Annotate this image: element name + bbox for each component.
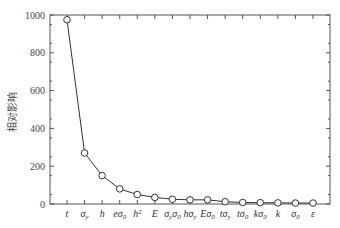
x-tick-label: σy​ [81, 208, 90, 221]
data-point-marker [152, 194, 159, 201]
y-tick-label: 400 [30, 123, 45, 134]
data-point-marker [310, 200, 317, 207]
x-tick-label: tσ0​ [237, 208, 249, 221]
data-point-marker [204, 197, 211, 204]
data-point-marker [99, 172, 106, 179]
data-point-marker [169, 196, 176, 203]
data-series [64, 16, 317, 206]
y-tick-label: 200 [30, 161, 45, 172]
y-axis-label: 相对影响 [6, 92, 18, 132]
data-point-marker [257, 199, 264, 206]
data-point-marker [292, 200, 299, 207]
y-tick-label: 600 [30, 85, 45, 96]
y-axis: 02004006008001000 [25, 10, 330, 210]
x-tick-label: σy​σ0​ [164, 208, 181, 221]
x-tick-label: E [151, 208, 158, 219]
x-tick-label: Eσ0​ [199, 208, 215, 221]
x-tick-label: k [276, 208, 281, 219]
data-point-marker [64, 16, 71, 23]
data-point-marker [222, 198, 229, 205]
y-tick-label: 1000 [25, 10, 45, 21]
x-tick-label: h [100, 208, 105, 219]
plot-frame [50, 15, 330, 204]
data-point-marker [116, 186, 123, 193]
x-tick-label: σ0​ [291, 208, 300, 221]
plot-border [50, 15, 330, 204]
x-tick-label: tσy​ [220, 208, 232, 221]
x-axis: tσy​heσ0​h²Eσy​σ0​hσy​Eσ0​tσy​tσ0​kσ0​kσ… [66, 15, 315, 221]
x-tick-label: hσy​ [183, 208, 197, 221]
data-point-marker [134, 191, 141, 198]
y-tick-label: 0 [40, 199, 45, 210]
data-point-marker [239, 199, 246, 206]
x-tick-label: kσ0​ [254, 208, 267, 221]
data-point-marker [275, 200, 282, 207]
y-tick-label: 800 [30, 47, 45, 58]
x-tick-label: ε [311, 208, 315, 219]
x-tick-label: eσ0​ [113, 208, 126, 221]
data-point-marker [187, 197, 194, 204]
chart: 02004006008001000 tσy​heσ0​h²Eσy​σ0​hσy​… [0, 0, 340, 228]
x-tick-label: t [66, 208, 69, 219]
x-tick-label: h² [133, 208, 142, 219]
data-point-marker [81, 150, 88, 157]
